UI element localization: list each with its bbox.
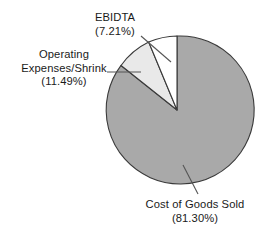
pie-label-cogs-value: (81.30%) bbox=[131, 212, 259, 226]
pie-label-ebidta-name: EBIDTA bbox=[72, 11, 158, 25]
pie-label-operating-expenses-shrink: Operating Expenses/Shrink (11.49%) bbox=[4, 48, 124, 89]
pie-label-cogs-name: Cost of Goods Sold bbox=[131, 198, 259, 212]
pie-label-opex-name-line2: Expenses/Shrink bbox=[4, 62, 124, 76]
pie-label-opex-name-line1: Operating bbox=[4, 48, 124, 62]
pie-label-opex-value: (11.49%) bbox=[4, 75, 124, 89]
pie-label-cost-of-goods-sold: Cost of Goods Sold (81.30%) bbox=[131, 198, 259, 225]
pie-label-ebidta: EBIDTA (7.21%) bbox=[72, 11, 158, 38]
pie-label-ebidta-value: (7.21%) bbox=[72, 25, 158, 39]
pie-chart-figure: EBIDTA (7.21%) Operating Expenses/Shrink… bbox=[0, 0, 267, 238]
